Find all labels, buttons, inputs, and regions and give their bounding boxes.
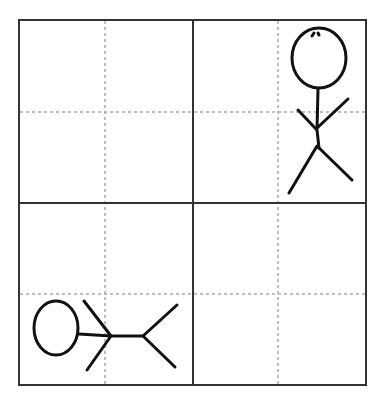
head — [34, 301, 78, 355]
grid-diagram — [0, 0, 385, 407]
legs — [289, 146, 352, 193]
legs — [143, 305, 177, 367]
arms — [298, 99, 348, 129]
grid-lines — [19, 20, 366, 385]
head — [292, 28, 346, 88]
body — [317, 89, 319, 148]
standing-stick-figure — [289, 28, 352, 193]
